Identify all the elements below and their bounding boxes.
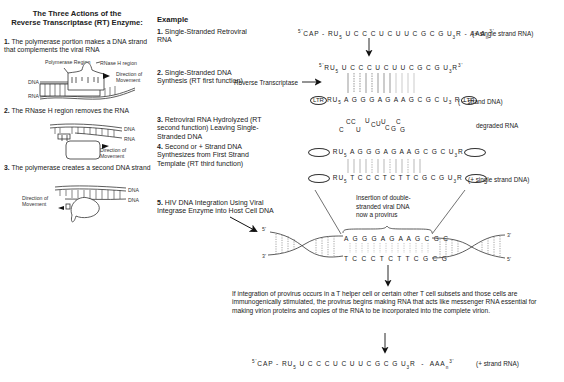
rt-enzyme-figure-3 <box>55 186 126 222</box>
rt-enzyme-figure-1 <box>40 62 135 99</box>
helix-3prime-right: 3' <box>507 232 511 238</box>
helix-5prime-right: 5' <box>507 256 511 262</box>
diagram-graphics <box>0 0 564 382</box>
rt-enzyme-figure-2 <box>50 124 122 159</box>
provirus-brace <box>343 226 432 233</box>
helix-5prime-left: 5' <box>262 226 266 232</box>
plus-strand-base-pairs <box>348 159 420 173</box>
host-dna-helix-left <box>268 232 428 257</box>
rt-base-pairs <box>348 73 414 93</box>
helix-3prime-left: 3' <box>262 253 266 259</box>
host-dna-helix-right <box>432 235 505 258</box>
insertion-line-left <box>315 190 341 234</box>
integration-arrow <box>230 217 256 231</box>
insertion-line-right <box>432 190 465 234</box>
